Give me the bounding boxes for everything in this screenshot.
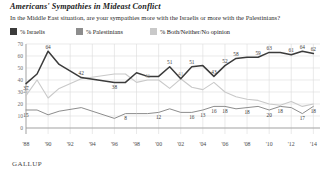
legend-swatch-israelis xyxy=(10,28,17,35)
legend-label-israelis: % Israelis xyxy=(20,28,45,35)
x-axis-tick: '08 xyxy=(244,141,251,147)
data-point-label: 41 xyxy=(145,73,151,79)
data-point-label: 15 xyxy=(23,112,29,118)
chart-plot-area: 010203040506070'88'90'92'94'96'98'00'02'… xyxy=(0,40,326,150)
legend-label-both-neither: % Both/Neither/No opinion xyxy=(160,28,230,35)
x-axis-tick: '00 xyxy=(155,141,162,147)
data-point-label: 64 xyxy=(300,44,306,50)
data-point-label: 52 xyxy=(222,58,228,64)
chart-subtitle: In the Middle East situation, are your s… xyxy=(10,14,280,21)
data-point-label: 43 xyxy=(211,69,217,75)
data-point-label: 51 xyxy=(167,59,173,65)
source-attribution: GALLUP xyxy=(12,160,42,168)
y-axis-tick: 20 xyxy=(17,101,23,107)
data-point-label: 62 xyxy=(311,46,317,52)
x-axis-tick: '94 xyxy=(89,141,96,147)
x-axis-tick: '92 xyxy=(67,141,74,147)
data-point-label: 51 xyxy=(189,59,195,65)
x-axis-tick: '02 xyxy=(177,141,184,147)
x-axis-tick: '90 xyxy=(45,141,52,147)
x-axis-tick: '14 xyxy=(310,141,317,147)
page-title: Americans' Sympathies in Mideast Conflic… xyxy=(10,2,161,11)
x-axis-tick: '12 xyxy=(288,141,295,147)
data-point-label: 41 xyxy=(178,71,184,77)
data-point-label: 8 xyxy=(124,115,127,121)
x-axis-tick: '98 xyxy=(133,141,140,147)
data-point-label: 38 xyxy=(112,84,118,90)
y-axis-tick: 70 xyxy=(17,41,23,47)
legend-label-palestinians: % Palestinians xyxy=(86,28,123,35)
data-point-label: 42 xyxy=(79,70,85,76)
y-axis-tick: 60 xyxy=(17,53,23,59)
data-point-label: 17 xyxy=(300,115,306,121)
data-point-label: 58 xyxy=(233,51,239,57)
series-line xyxy=(26,74,313,106)
data-point-label: 16 xyxy=(211,108,217,114)
data-point-label: 27 xyxy=(23,88,29,94)
data-point-label: 63 xyxy=(267,45,273,51)
legend-item-palestinians[interactable]: % Palestinians xyxy=(76,28,123,35)
data-point-label: 61 xyxy=(289,47,295,53)
data-point-label: 18 xyxy=(222,108,228,114)
data-point-label: 20 xyxy=(267,112,273,118)
legend-item-both-neither[interactable]: % Both/Neither/No opinion xyxy=(150,28,230,35)
data-point-label: 18 xyxy=(311,108,317,114)
line-chart: 010203040506070'88'90'92'94'96'98'00'02'… xyxy=(0,40,326,152)
y-axis-tick: 50 xyxy=(17,65,23,71)
data-point-label: 12 xyxy=(156,114,162,120)
y-axis-tick: 0 xyxy=(20,125,23,131)
y-axis-tick: 40 xyxy=(17,77,23,83)
y-axis-tick: 10 xyxy=(17,113,23,119)
data-point-label: 16 xyxy=(189,114,195,120)
legend-item-israelis[interactable]: % Israelis xyxy=(10,28,45,35)
x-axis-tick: '10 xyxy=(266,141,273,147)
x-axis-tick: '06 xyxy=(222,141,229,147)
data-point-label: 13 xyxy=(200,112,206,118)
chart-card: Americans' Sympathies in Mideast Conflic… xyxy=(0,0,326,179)
x-axis-tick: '96 xyxy=(111,141,118,147)
data-point-label: 59 xyxy=(255,50,261,56)
data-point-label: 64 xyxy=(45,44,51,50)
legend-swatch-both-neither xyxy=(150,28,157,35)
y-axis-tick: 30 xyxy=(17,89,23,95)
data-point-label: 18 xyxy=(278,108,284,114)
data-point-label: 18 xyxy=(244,109,250,115)
x-axis-tick: '88 xyxy=(23,141,30,147)
x-axis-tick: '04 xyxy=(199,141,206,147)
legend-swatch-palestinians xyxy=(76,28,83,35)
